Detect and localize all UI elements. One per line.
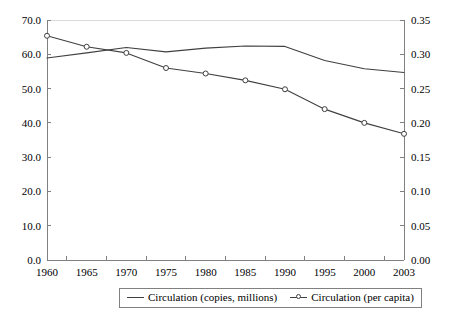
right-axis-tick-label: 0.30: [411, 48, 431, 60]
chart-container: 0.010.020.030.040.050.060.070.00.000.050…: [0, 0, 454, 319]
x-axis-tick-label: 1960: [36, 266, 59, 278]
right-axis-tick-label: 0.10: [411, 185, 431, 197]
right-axis-tick-label: 0.20: [411, 117, 431, 129]
legend-item-circulation-per-capita: Circulation (per capita): [290, 291, 414, 304]
chart-legend: Circulation (copies, millions) Circulati…: [119, 288, 422, 308]
right-axis-tick-label: 0.25: [411, 83, 431, 95]
axes-group: [47, 20, 404, 260]
x-axis-tick-label: 1990: [274, 266, 297, 278]
series-marker: [164, 66, 169, 71]
line-chart-plot: 0.010.020.030.040.050.060.070.00.000.050…: [0, 0, 454, 319]
right-axis-tick-label: 0.35: [411, 14, 431, 26]
legend-label: Circulation (per capita): [311, 291, 414, 304]
legend-label: Circulation (copies, millions): [148, 291, 277, 304]
legend-line-icon: [127, 293, 144, 302]
x-axis-tick-label: 1985: [234, 266, 257, 278]
left-axis-tick-label: 0.0: [27, 254, 41, 266]
series-marker: [124, 50, 129, 55]
legend-item-circulation-copies-millions: Circulation (copies, millions): [127, 291, 277, 304]
x-axis-tick-label: 1995: [314, 266, 337, 278]
left-axis-tick-label: 60.0: [22, 48, 42, 60]
left-axis-tick-label: 50.0: [22, 83, 42, 95]
x-axis-tick-label: 1975: [155, 266, 178, 278]
series-marker: [243, 78, 248, 83]
left-axis-tick-label: 40.0: [22, 117, 42, 129]
x-axis-tick-label: 1970: [115, 266, 138, 278]
right-axis-tick-label: 0.05: [411, 220, 431, 232]
x-axis-tick-label: 2000: [353, 266, 376, 278]
left-axis-tick-label: 20.0: [22, 185, 42, 197]
left-axis-tick-label: 30.0: [22, 151, 42, 163]
series-line-0: [47, 46, 404, 72]
left-axis-tick-label: 70.0: [22, 14, 42, 26]
series-group: [45, 33, 407, 136]
x-axis-tick-label: 1980: [195, 266, 218, 278]
x-axis-tick-label: 1965: [76, 266, 99, 278]
series-marker: [362, 120, 367, 125]
x-axis-tick-label: 2003: [393, 266, 416, 278]
legend-line-marker-icon: [290, 293, 307, 302]
right-axis-tick-label: 0.00: [411, 254, 431, 266]
series-marker: [402, 131, 407, 136]
right-axis-tick-label: 0.15: [411, 151, 431, 163]
series-marker: [322, 107, 327, 112]
series-marker: [84, 44, 89, 49]
series-marker: [203, 71, 208, 76]
series-marker: [45, 33, 50, 38]
series-marker: [283, 87, 288, 92]
left-axis-tick-label: 10.0: [22, 220, 42, 232]
